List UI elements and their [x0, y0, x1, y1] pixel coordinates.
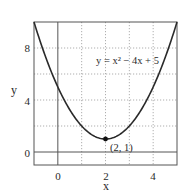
- x-axis-label: x: [103, 179, 109, 193]
- vertex-label: (2, 1): [110, 142, 133, 154]
- vertex-point: [103, 137, 108, 142]
- y-axis-label: y: [11, 83, 17, 97]
- x-tick-0: 0: [55, 170, 61, 182]
- parabola-chart: y = x² − 4x + 5 (2, 1) 0 2 4 0 4 8 x y: [0, 0, 188, 196]
- y-tick-4: 4: [25, 95, 31, 107]
- y-tick-0: 0: [25, 147, 31, 159]
- equation-label: y = x² − 4x + 5: [96, 55, 159, 66]
- grid-lines: [34, 22, 177, 165]
- x-tick-4: 4: [150, 170, 156, 182]
- y-tick-8: 8: [25, 42, 31, 54]
